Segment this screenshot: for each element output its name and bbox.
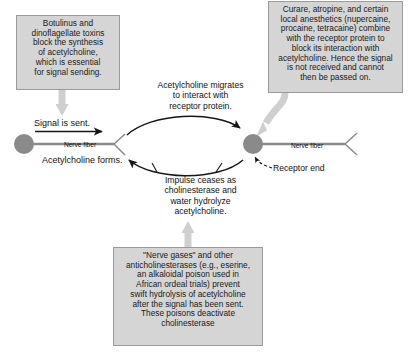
signal-is-sent-label: Signal is sent.: [34, 118, 134, 129]
curve-tick-marks: [152, 163, 222, 172]
nerve-fiber-right-label: Nerve fiber: [272, 142, 342, 150]
nerve-signal-diagram: Botulinus and dinoflagellate toxins bloc…: [0, 0, 409, 358]
botulinus-pointer-arrow: [56, 90, 69, 116]
botulinus-note-box: Botulinus and dinoflagellate toxins bloc…: [16, 15, 120, 90]
acetylcholine-migration-arrow: [127, 116, 240, 135]
acetylcholine-migrates-label: Acetylcholine migrates to interact with …: [128, 80, 273, 111]
acetylcholine-forms-label: Acetylcholine forms.: [42, 155, 162, 166]
nerve-gases-pointer-arrow: [182, 221, 195, 247]
receptor-end-callout-arrow: [255, 157, 272, 168]
receptor-end-label: Receptor end: [273, 163, 363, 173]
impulse-ceases-label: Impulse ceases as cholinesterase and wat…: [128, 175, 273, 216]
curare-note-box: Curare, atropine, and certain local anes…: [268, 1, 403, 93]
nerve-fiber-left-label: Nerve fiber: [45, 141, 115, 149]
nerve-gases-note-box: "Nerve gases" and other anticholinestera…: [113, 247, 263, 346]
